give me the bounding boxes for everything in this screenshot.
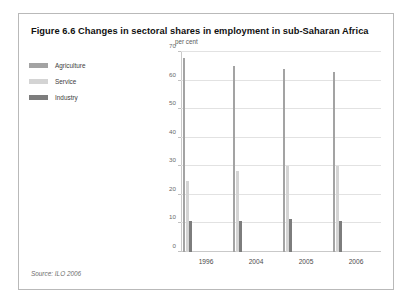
x-axis-tick-label: 1996 [199, 258, 214, 265]
legend-swatch-icon [29, 63, 48, 68]
x-axis-tick-label: 2004 [249, 258, 264, 265]
bar-industry-2004 [239, 221, 242, 252]
bar-industry-1996 [189, 221, 192, 252]
x-axis-tick-label: 2005 [299, 258, 314, 265]
legend-swatch-icon [29, 95, 48, 100]
y-axis-tick-label: 0 [173, 242, 176, 249]
y-axis-tick-label: 20 [169, 184, 176, 191]
y-axis-tick-label: 50 [169, 99, 176, 106]
bar-industry-2006 [339, 221, 342, 252]
y-axis-tick-label: 30 [169, 156, 176, 163]
bar-group: 1996 [181, 52, 231, 252]
legend-item: Agriculture [29, 58, 149, 72]
legend-swatch-icon [29, 79, 48, 84]
chart-plot-canvas: 0102030405060701996200420052006 [181, 52, 381, 252]
y-axis-tick-label: 10 [169, 213, 176, 220]
chart-legend: AgricultureServiceIndustry [29, 58, 149, 106]
legend-item-label: Agriculture [55, 62, 86, 69]
plot-area: per cent 0102030405060701996200420052006 [167, 38, 385, 278]
x-axis-tick-label: 2006 [349, 258, 364, 265]
legend-item: Industry [29, 90, 149, 104]
bar-group: 2006 [331, 52, 381, 252]
source-note: Source: ILO 2006 [31, 270, 81, 277]
y-axis-unit-label: per cent [175, 38, 198, 45]
legend-item-label: Industry [55, 94, 78, 101]
y-axis-tick-label: 40 [169, 127, 176, 134]
legend-item-label: Service [55, 78, 76, 85]
bar-industry-2005 [289, 219, 292, 252]
y-axis-tick-label: 60 [169, 70, 176, 77]
bar-group: 2004 [231, 52, 281, 252]
legend-item: Service [29, 74, 149, 88]
figure-container: Figure 6.6 Changes in sectoral shares in… [18, 13, 394, 290]
figure-title: Figure 6.6 Changes in sectoral shares in… [31, 26, 381, 36]
y-axis-tick-label: 70 [169, 42, 176, 49]
bar-group: 2005 [281, 52, 331, 252]
